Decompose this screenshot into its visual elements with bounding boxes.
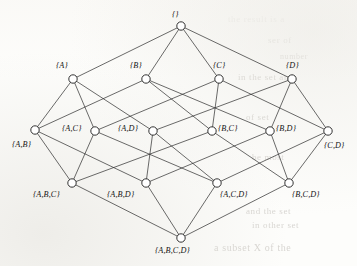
lattice-node-empty[interactable]: [177, 22, 185, 30]
lattice-edge-CD-BCD: [289, 131, 328, 183]
node-label-ABCD: {A,B,C,D}: [155, 246, 190, 255]
node-label-BD: {B,D}: [276, 124, 296, 133]
lattice-edge-empty-D: [181, 26, 292, 79]
node-label-ACD: {A,C,D}: [220, 190, 248, 199]
node-label-BCD: {B,C,D}: [292, 190, 320, 199]
node-label-A: {A}: [56, 61, 68, 70]
lattice-edge-empty-A: [73, 26, 181, 79]
lattice-node-C[interactable]: [215, 75, 223, 83]
lattice-node-B[interactable]: [142, 75, 150, 83]
node-label-AD: {A,D}: [118, 124, 138, 133]
lattice-graph: [0, 0, 357, 266]
lattice-edge-AD-ABD: [146, 131, 153, 183]
lattice-node-ACD[interactable]: [213, 179, 221, 187]
lattice-node-ABC[interactable]: [68, 179, 76, 187]
lattice-node-ABD[interactable]: [142, 179, 150, 187]
node-label-AB: {A,B}: [12, 140, 31, 149]
lattice-node-BCD[interactable]: [285, 179, 293, 187]
lattice-edge-empty-C: [181, 26, 219, 79]
lattice-node-D[interactable]: [288, 75, 296, 83]
lattice-node-AC[interactable]: [91, 127, 99, 135]
lattice-edge-BD-ABD: [146, 131, 270, 183]
lattice-edge-AB-ABC: [35, 130, 72, 183]
lattice-edge-B-BC: [146, 79, 212, 131]
lattice-node-BD[interactable]: [266, 127, 274, 135]
node-label-C: {C}: [213, 61, 225, 70]
node-label-BC: {B,C}: [218, 124, 238, 133]
lattice-edge-B-BD: [146, 79, 270, 131]
lattice-node-BC[interactable]: [208, 127, 216, 135]
lattice-node-CD[interactable]: [324, 127, 332, 135]
hasse-diagram-figure: the result is aser ofin the set andof se…: [0, 0, 357, 266]
lattice-edge-A-AB: [35, 79, 73, 130]
node-label-ABC: {A,B,C}: [33, 190, 60, 199]
lattice-edge-ABD-ABCD: [146, 183, 181, 238]
lattice-edge-AC-ACD: [95, 131, 217, 183]
lattice-edge-BC-ABC: [72, 131, 212, 183]
node-label-B: {B}: [130, 61, 142, 70]
node-label-empty: {}: [172, 10, 179, 19]
node-label-CD: {C,D}: [324, 141, 344, 150]
node-label-AC: {A,C}: [62, 124, 82, 133]
lattice-node-ABCD[interactable]: [177, 234, 185, 242]
node-label-D: {D}: [286, 61, 299, 70]
lattice-edge-empty-B: [146, 26, 181, 79]
lattice-edge-AB-ABD: [35, 130, 146, 183]
lattice-edge-ACD-ABCD: [181, 183, 217, 238]
node-label-ABD: {A,B,D}: [107, 190, 134, 199]
lattice-edge-D-CD: [292, 79, 328, 131]
lattice-node-AB[interactable]: [31, 126, 39, 134]
lattice-node-AD[interactable]: [149, 127, 157, 135]
lattice-node-A[interactable]: [69, 75, 77, 83]
lattice-edge-B-AB: [35, 79, 146, 130]
